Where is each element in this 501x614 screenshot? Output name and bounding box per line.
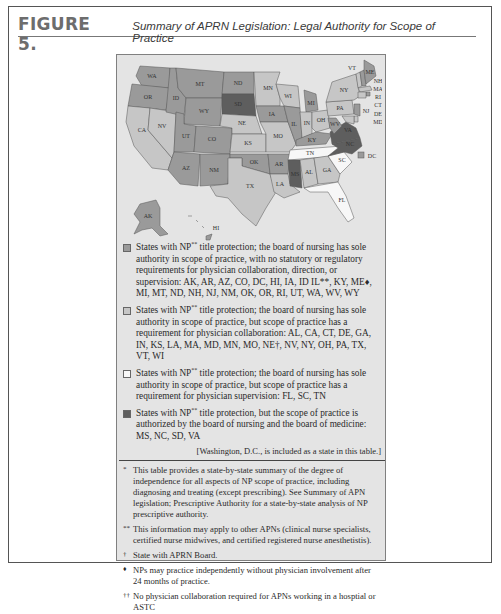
state-de xyxy=(354,116,358,122)
svg-text:LA: LA xyxy=(276,181,285,187)
svg-text:KS: KS xyxy=(244,140,252,146)
svg-text:MD: MD xyxy=(373,119,382,125)
swatch-full-authority xyxy=(123,244,131,252)
svg-text:ND: ND xyxy=(234,80,243,86)
svg-text:MN: MN xyxy=(263,85,273,91)
svg-text:UT: UT xyxy=(182,133,190,139)
svg-text:CO: CO xyxy=(208,136,217,142)
svg-text:IN: IN xyxy=(304,120,311,126)
svg-text:OH: OH xyxy=(317,117,326,123)
svg-text:AK: AK xyxy=(144,213,153,219)
svg-text:NH: NH xyxy=(374,78,382,84)
svg-text:FL: FL xyxy=(338,197,345,203)
footnote: †State with APRN Board. xyxy=(123,550,381,561)
svg-text:VA: VA xyxy=(344,127,353,133)
svg-text:AR: AR xyxy=(275,161,283,167)
svg-text:TX: TX xyxy=(246,183,255,189)
svg-text:RI: RI xyxy=(375,94,381,100)
state-fl xyxy=(304,182,354,222)
svg-text:AZ: AZ xyxy=(182,165,190,171)
svg-text:MI: MI xyxy=(307,100,314,106)
legend-item-joint-boards: States with NP** title protection, but t… xyxy=(123,408,381,443)
state-nj xyxy=(354,104,360,116)
state-hi xyxy=(188,216,212,240)
figure-panel: WA OR CA NV ID MT WY UT CO AZ NM ND SD N… xyxy=(116,54,386,561)
footnote: *This table provides a state-by-state su… xyxy=(123,465,381,520)
svg-text:NY: NY xyxy=(340,87,349,93)
svg-text:OK: OK xyxy=(250,159,259,165)
svg-text:GA: GA xyxy=(323,167,332,173)
svg-text:NM: NM xyxy=(209,167,219,173)
legend-item-full-authority: States with NP** title protection; the b… xyxy=(123,242,381,300)
legend: States with NP** title protection; the b… xyxy=(123,242,381,614)
svg-text:HI: HI xyxy=(213,225,219,231)
svg-text:DE: DE xyxy=(374,111,382,117)
svg-text:CA: CA xyxy=(138,127,147,133)
svg-text:NC: NC xyxy=(346,141,354,147)
footnote: **This information may apply to other AP… xyxy=(123,524,381,546)
svg-text:WY: WY xyxy=(199,108,210,114)
svg-text:VT: VT xyxy=(348,65,356,71)
svg-text:IA: IA xyxy=(269,111,276,117)
swatch-joint-boards xyxy=(123,410,131,418)
svg-text:OR: OR xyxy=(144,94,152,100)
figure-header: FIGURE 5. Summary of APRN Legislation: L… xyxy=(18,14,476,37)
dc-swatch xyxy=(358,152,364,158)
svg-text:WV: WV xyxy=(330,121,341,127)
svg-text:PA: PA xyxy=(336,105,344,111)
swatch-collaboration xyxy=(123,307,131,315)
svg-text:DC: DC xyxy=(368,153,376,159)
state-md xyxy=(342,116,354,124)
svg-text:AL: AL xyxy=(305,169,313,175)
figure-title: Summary of APRN Legislation: Legal Autho… xyxy=(132,20,476,44)
svg-text:IL: IL xyxy=(291,121,297,127)
svg-text:ME: ME xyxy=(366,69,375,75)
svg-text:SC: SC xyxy=(338,157,345,163)
svg-text:ID: ID xyxy=(173,95,180,101)
footnote: ††No physician collaboration required fo… xyxy=(123,591,381,613)
svg-text:NV: NV xyxy=(158,123,167,129)
swatch-supervision xyxy=(123,370,131,378)
svg-text:KY: KY xyxy=(308,137,317,143)
svg-text:MT: MT xyxy=(196,81,205,87)
us-map: WA OR CA NV ID MT WY UT CO AZ NM ND SD N… xyxy=(120,58,382,244)
svg-text:WA: WA xyxy=(147,73,157,79)
svg-text:CT: CT xyxy=(374,102,382,108)
legend-item-collaboration: States with NP** title protection; the b… xyxy=(123,305,381,363)
svg-text:NJ: NJ xyxy=(363,108,370,114)
state-ri xyxy=(366,92,370,96)
state-ct xyxy=(358,92,366,98)
svg-text:NE: NE xyxy=(238,120,246,126)
svg-text:MA: MA xyxy=(373,86,382,92)
svg-text:SD: SD xyxy=(234,101,242,107)
footnote: ♦NPs may practice independently without … xyxy=(123,565,381,587)
dc-note: [Washington, D.C., is included as a stat… xyxy=(123,446,381,461)
svg-text:WI: WI xyxy=(284,93,292,99)
svg-text:MS: MS xyxy=(291,171,300,177)
footnote-divider xyxy=(119,460,385,461)
legend-item-supervision: States with NP** title protection; the b… xyxy=(123,368,381,403)
figure-label: FIGURE 5. xyxy=(18,14,114,54)
svg-text:TN: TN xyxy=(306,150,315,156)
svg-text:MO: MO xyxy=(273,133,283,139)
